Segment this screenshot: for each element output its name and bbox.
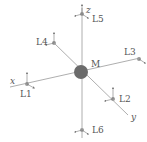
label-L3: L3 [124,47,136,57]
center-label: M [91,59,100,69]
z-axis-label: z [85,5,91,15]
label-L6: L6 [92,125,104,135]
label-L1: L1 [20,89,32,99]
y-axis [54,43,128,115]
x-axis-label: x [10,76,15,86]
ligand-L6 [75,128,88,134]
diagram-svg: M z x y L5 L4 L3 L1 L2 L6 [0,0,147,142]
y-axis-label: y [130,112,137,122]
label-L2: L2 [119,94,131,104]
metal-center [74,65,88,79]
label-L5: L5 [92,14,104,24]
ligand-L1 [25,73,34,88]
octahedral-coordination-diagram: M z x y L5 L4 L3 L1 L2 L6 [0,0,147,142]
label-L4: L4 [36,37,48,47]
ligand-L3 [137,57,145,63]
